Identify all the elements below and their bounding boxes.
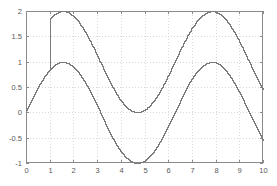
axes-frame <box>27 12 263 163</box>
x-tick-label: 1 <box>48 166 52 175</box>
data-series-line <box>51 12 264 113</box>
x-tick-label: 5 <box>143 166 147 175</box>
data-series-line <box>27 63 264 164</box>
x-tick-label: 0 <box>24 166 28 175</box>
grid-layer <box>27 12 262 162</box>
y-tick-label: -0.5 <box>9 134 22 143</box>
x-tick-label: 10 <box>259 166 267 175</box>
x-tick-label: 6 <box>166 166 170 175</box>
x-tick-label: 4 <box>119 166 123 175</box>
y-tick-label: 1.5 <box>12 32 22 41</box>
x-tick-label: 2 <box>71 166 75 175</box>
y-tick-label: 0.5 <box>12 83 22 92</box>
xtick-label-layer: 012345678910 <box>24 166 267 175</box>
plot-figure: 012345678910 -1-0.500.511.52 <box>0 0 277 186</box>
y-tick-label: 2 <box>18 7 22 16</box>
x-tick-label: 7 <box>190 166 194 175</box>
y-tick-label: -1 <box>15 159 22 168</box>
plot-canvas: 012345678910 -1-0.500.511.52 <box>0 0 277 186</box>
x-tick-label: 8 <box>214 166 218 175</box>
y-tick-label: 1 <box>18 58 22 67</box>
x-tick-label: 3 <box>95 166 99 175</box>
y-tick-label: 0 <box>18 108 22 117</box>
ytick-label-layer: -1-0.500.511.52 <box>9 7 22 168</box>
x-tick-label: 9 <box>237 166 241 175</box>
